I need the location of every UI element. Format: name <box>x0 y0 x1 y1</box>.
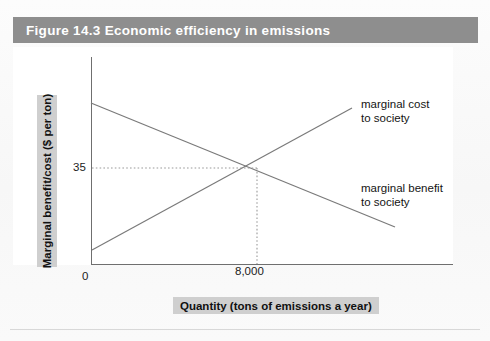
y-axis-title: Marginal benefit/cost ($ per ton) <box>37 95 57 267</box>
marginal-benefit-annotation-line2: to society <box>361 196 443 210</box>
chart-plot-panel: 35 0 8,000 marginal cost to society marg… <box>13 47 453 265</box>
marginal-benefit-annotation-line1: marginal benefit <box>361 182 443 196</box>
marginal-cost-annotation-line1: marginal cost <box>361 98 429 112</box>
figure-container: Figure 14.3 Economic efficiency in emiss… <box>0 0 490 341</box>
figure-title: Figure 14.3 Economic efficiency in emiss… <box>13 23 330 38</box>
marginal-cost-annotation-line2: to society <box>361 112 429 126</box>
marginal-cost-line <box>92 108 352 250</box>
marginal-cost-annotation: marginal cost to society <box>361 98 429 125</box>
chart-lines-svg <box>13 47 453 265</box>
x-tick-label-0: 0 <box>82 270 88 282</box>
x-axis-title: Quantity (tons of emissions a year) <box>173 297 379 314</box>
marginal-benefit-annotation: marginal benefit to society <box>361 182 443 209</box>
figure-title-bar: Figure 14.3 Economic efficiency in emiss… <box>13 17 478 43</box>
page-bottom-rule <box>10 329 480 330</box>
y-tick-label-35: 35 <box>73 161 86 173</box>
marginal-benefit-line <box>91 103 395 227</box>
x-tick-label-8000: 8,000 <box>235 265 264 277</box>
